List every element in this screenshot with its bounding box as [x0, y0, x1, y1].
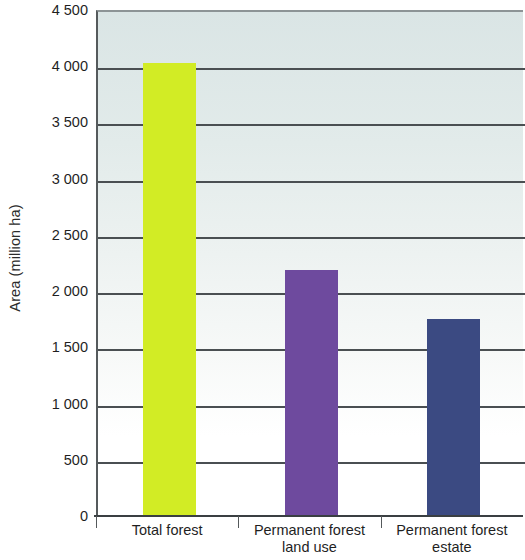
bar — [285, 270, 338, 516]
y-tick-label: 0 — [26, 509, 88, 524]
x-axis-baseline — [94, 515, 523, 517]
y-axis-title-text: Area (million ha) — [7, 204, 23, 311]
x-axis-category-label: Permanent forestestate — [381, 522, 523, 555]
bar — [427, 319, 480, 516]
y-axis-tick-labels: 4 5004 0003 5003 0002 5002 0001 5001 000… — [26, 0, 88, 560]
y-tick-label: 2 500 — [26, 228, 88, 243]
x-axis-category-label-line1: Permanent forest — [238, 522, 380, 539]
y-tick-label: 4 000 — [26, 59, 88, 74]
y-tick-label: 1 500 — [26, 340, 88, 355]
x-axis-category-label: Total forest — [96, 522, 238, 539]
x-axis-category-label-line1: Total forest — [96, 522, 238, 539]
y-tick-label: 4 500 — [26, 3, 88, 18]
plot-area — [96, 10, 523, 516]
y-tick-label: 1 000 — [26, 396, 88, 411]
x-axis-category-label-line1: Permanent forest — [381, 522, 523, 539]
y-tick-label: 2 000 — [26, 284, 88, 299]
y-tick-label: 3 000 — [26, 171, 88, 186]
y-tick-label: 500 — [26, 453, 88, 468]
x-axis-category-label-line2: land use — [238, 539, 380, 556]
x-axis-category-label-line2: estate — [381, 539, 523, 556]
y-tick-label: 3 500 — [26, 115, 88, 130]
x-axis-category-label: Permanent forestland use — [238, 522, 380, 555]
bar — [143, 63, 196, 516]
